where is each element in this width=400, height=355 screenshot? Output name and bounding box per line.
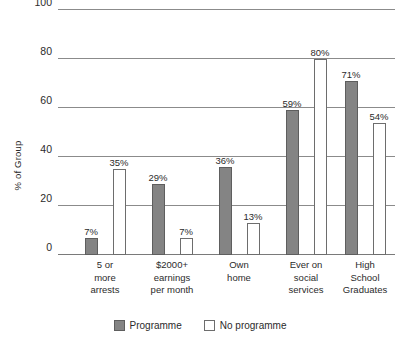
bar-value-label: 71%: [341, 69, 360, 80]
bar-programme-2: 36%: [219, 167, 232, 255]
chart-legend: ProgrammeNo programme: [0, 320, 400, 331]
gridline-100: 100: [58, 9, 395, 10]
bar-no-programme-3: 80%: [314, 59, 327, 255]
x-axis-label-line: per month: [132, 284, 212, 297]
bar-value-label: 80%: [310, 47, 329, 58]
bar-value-label: 54%: [369, 111, 388, 122]
bar-value-label: 59%: [282, 98, 301, 109]
y-tick-label-0: 0: [46, 241, 52, 253]
bar-value-label: 36%: [215, 155, 234, 166]
bar-no-programme-4: 54%: [373, 123, 386, 255]
x-axis-label-line: School: [325, 272, 400, 285]
legend-label: No programme: [220, 320, 287, 331]
bar-chart: % of Group 020406080100 7%35%29%7%36%13%…: [0, 0, 400, 355]
y-axis-title: % of Group: [12, 126, 23, 206]
x-axis-label-line: Graduates: [325, 284, 400, 297]
x-axis-label-line: High: [325, 259, 400, 272]
y-tick-label-20: 20: [40, 192, 52, 204]
plot-area: 020406080100 7%35%29%7%36%13%59%80%71%54…: [58, 10, 395, 255]
bar-value-label: 13%: [243, 211, 262, 222]
legend-swatch-icon: [114, 320, 125, 331]
y-tick-label-100: 100: [34, 0, 52, 8]
bar-value-label: 7%: [179, 226, 193, 237]
bar-value-label: 29%: [148, 172, 167, 183]
legend-swatch-icon: [204, 320, 215, 331]
bar-programme-0: 7%: [85, 238, 98, 255]
bar-value-label: 7%: [84, 226, 98, 237]
bar-no-programme-2: 13%: [247, 223, 260, 255]
bar-programme-3: 59%: [286, 110, 299, 255]
bar-no-programme-0: 35%: [113, 169, 126, 255]
bar-programme-4: 71%: [345, 81, 358, 255]
bar-no-programme-1: 7%: [180, 238, 193, 255]
y-tick-label-40: 40: [40, 143, 52, 155]
legend-label: Programme: [130, 320, 182, 331]
y-tick-label-60: 60: [40, 94, 52, 106]
x-axis-label-4: HighSchoolGraduates: [325, 259, 400, 297]
gridline-80: 80: [58, 58, 395, 59]
legend-item-programme[interactable]: Programme: [114, 320, 182, 331]
x-axis-labels: 5 ormorearrests$2000+earningsper monthOw…: [58, 259, 395, 307]
bar-programme-1: 29%: [152, 184, 165, 255]
y-tick-label-80: 80: [40, 45, 52, 57]
bar-value-label: 35%: [109, 157, 128, 168]
legend-item-noprogramme[interactable]: No programme: [204, 320, 287, 331]
